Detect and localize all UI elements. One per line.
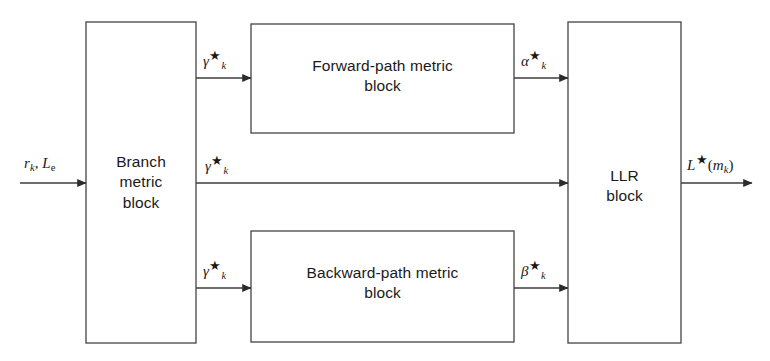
signal-label-alpha: α★k [521, 48, 546, 71]
input-L-subscript: e [51, 162, 56, 173]
forward-path-metric-block-outline [251, 24, 514, 133]
alpha-symbol: α [521, 53, 529, 69]
gamma-bottom-subscript: k [221, 270, 226, 281]
signal-label-gamma-top: γ★k [203, 48, 226, 71]
llr-block-outline [568, 22, 681, 343]
gamma-mid-subscript: k [223, 165, 228, 176]
gamma-bottom-star: ★ [209, 258, 221, 273]
beta-subscript: k [541, 270, 546, 281]
gamma-mid-star: ★ [211, 153, 223, 168]
input-r-symbol: r [24, 155, 30, 171]
gamma-top-star: ★ [209, 48, 221, 63]
signal-label-input: rk, Le [24, 155, 55, 173]
output-paren-close: ) [728, 157, 733, 173]
block-diagram: Branch metric block Forward-path metric … [0, 0, 770, 361]
signal-label-beta: β★k [521, 258, 546, 281]
alpha-star: ★ [529, 48, 541, 63]
branch-metric-block-outline [86, 22, 196, 343]
signal-label-gamma-bottom: γ★k [203, 258, 226, 281]
signal-label-output: L★(mk) [687, 152, 733, 175]
output-star: ★ [695, 152, 707, 167]
diagram-canvas [0, 0, 770, 361]
output-m-symbol: m [713, 157, 724, 173]
alpha-subscript: k [541, 60, 546, 71]
beta-star: ★ [528, 258, 540, 273]
input-L-symbol: L [42, 155, 50, 171]
backward-path-metric-block-outline [251, 231, 514, 342]
gamma-top-subscript: k [221, 60, 226, 71]
signal-label-gamma-mid: γ★k [205, 153, 228, 176]
